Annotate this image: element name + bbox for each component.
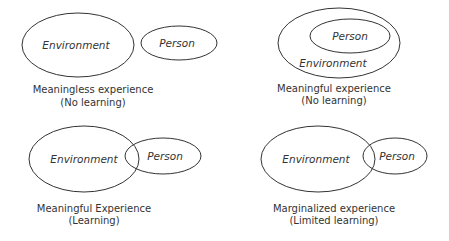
panel-meaningful-no-learning: Person Environment Meaningful experience… — [277, 8, 400, 106]
environment-label: Environment — [282, 153, 350, 165]
person-label: Person — [379, 150, 415, 162]
caption-title: Meaningful Experience — [37, 203, 151, 214]
caption-title: Meaningless experience — [33, 84, 154, 95]
panel-meaningless-experience: Environment Person Meaningless experienc… — [22, 13, 217, 108]
caption-subtitle: (No learning) — [301, 95, 366, 106]
caption-subtitle: (No learning) — [60, 97, 125, 108]
panel-marginalized: Environment Person Marginalized experien… — [261, 126, 427, 226]
person-label: Person — [159, 37, 195, 49]
environment-label: Environment — [42, 39, 110, 51]
person-label: Person — [147, 150, 183, 162]
environment-label: Environment — [299, 57, 367, 69]
caption-title: Marginalized experience — [273, 203, 395, 214]
caption-title: Meaningful experience — [277, 83, 391, 94]
person-label: Person — [332, 30, 368, 42]
experience-diagram: Environment Person Meaningless experienc… — [0, 0, 449, 241]
environment-label: Environment — [50, 153, 118, 165]
panel-meaningful-learning: Environment Person Meaningful Experience… — [29, 126, 201, 226]
caption-subtitle: (Learning) — [68, 215, 119, 226]
caption-subtitle: (Limited learning) — [289, 215, 378, 226]
